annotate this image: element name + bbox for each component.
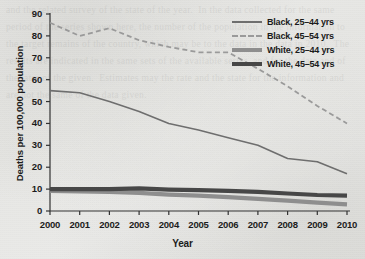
x-tick-label: 2006 (213, 219, 243, 230)
x-tick-label: 2001 (65, 219, 95, 230)
legend-label: White, 25–44 yrs (267, 45, 334, 55)
x-tick-label: 2005 (184, 219, 214, 230)
legend-item-black-45-54: Black, 45–54 yrs (232, 30, 334, 42)
x-tick-label: 2009 (302, 219, 332, 230)
x-tick-label: 2003 (124, 219, 154, 230)
y-tick-label: 20 (16, 161, 42, 172)
legend-swatch-dashed-icon (232, 30, 262, 42)
legend-swatch-thick-light-icon (232, 44, 262, 56)
legend-item-white-45-54: White, 45–54 yrs (232, 58, 334, 70)
y-tick-label: 30 (16, 139, 42, 150)
y-tick-label: 10 (16, 183, 42, 194)
legend-item-white-25-44: White, 25–44 yrs (232, 44, 334, 56)
y-tick-label: 70 (16, 52, 42, 63)
x-axis-title: Year (0, 238, 365, 249)
legend-swatch-solid-thin-icon (232, 16, 262, 28)
y-tick-label: 40 (16, 117, 42, 128)
y-tick-label: 90 (16, 8, 42, 19)
x-tick-label: 2002 (94, 219, 124, 230)
x-tick-label: 2008 (273, 219, 303, 230)
legend-item-black-25-44: Black, 25–44 yrs (232, 16, 334, 28)
y-tick-label: 80 (16, 30, 42, 41)
y-tick-label: 60 (16, 74, 42, 85)
x-tick-label: 2000 (35, 219, 65, 230)
chart-legend: Black, 25–44 yrs Black, 45–54 yrs White,… (232, 16, 334, 70)
x-tick-label: 2007 (243, 219, 273, 230)
y-tick-label: 0 (16, 205, 42, 216)
legend-swatch-thick-dark-icon (232, 58, 262, 70)
x-tick-label: 2004 (154, 219, 184, 230)
legend-label: White, 45–54 yrs (267, 59, 334, 69)
y-tick-label: 50 (16, 96, 42, 107)
line-chart: Deaths per 100,000 population Year 01020… (0, 0, 365, 259)
x-tick-label: 2010 (332, 219, 362, 230)
legend-label: Black, 45–54 yrs (267, 31, 334, 41)
legend-label: Black, 25–44 yrs (267, 17, 334, 27)
